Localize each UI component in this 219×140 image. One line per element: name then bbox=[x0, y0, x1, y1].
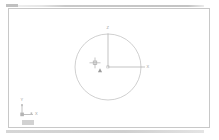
ucs-icon[interactable] bbox=[20, 104, 33, 116]
horizontal-axis-label: X bbox=[147, 65, 150, 69]
snap-marker-icon bbox=[98, 68, 102, 72]
application-window: Z X Y X bbox=[0, 0, 219, 140]
ucs-x-label: X bbox=[35, 112, 38, 116]
crosshair-cursor[interactable] bbox=[90, 58, 101, 69]
vertical-axis-label: Z bbox=[107, 26, 109, 30]
drawing-vector-layer bbox=[0, 0, 219, 140]
status-bar[interactable] bbox=[6, 130, 204, 133]
status-bar-chip[interactable] bbox=[22, 120, 34, 125]
ucs-y-label: Y bbox=[21, 98, 24, 102]
